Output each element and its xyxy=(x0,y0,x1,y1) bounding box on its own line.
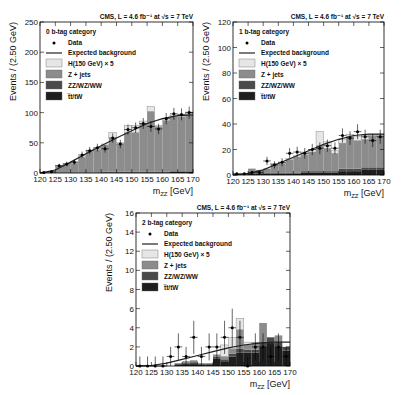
chart-svg: 1201251301351401451501551601651700501001… xyxy=(0,0,200,200)
y-tick-label: 8 xyxy=(130,286,135,295)
y-tick-label: 0 xyxy=(130,362,135,371)
legend: 2 b-tag categoryDataExpected backgroundH… xyxy=(142,219,232,291)
legend-entry: ZZ/WZ/WW xyxy=(68,82,103,89)
category-label: 1 b-tag category xyxy=(239,28,290,36)
x-axis-label: mZZ [GeV] xyxy=(344,188,384,199)
legend-entry: ZZ/WZ/WW xyxy=(164,273,199,280)
x-tick-label: 140 xyxy=(191,368,205,377)
legend-entry: Z + jets xyxy=(164,262,187,270)
x-tick-label: 130 xyxy=(160,368,174,377)
y-tick-label: 250 xyxy=(25,18,39,27)
y-tick-label: 10 xyxy=(125,266,134,275)
legend-entry: H(150 GeV) × 5 xyxy=(261,60,307,68)
x-tick-label: 160 xyxy=(156,175,170,184)
svg-text:Expected background: Expected background xyxy=(164,240,232,248)
chart-title: CMS, L = 4.6 fb⁻¹ at √s = 7 TeV xyxy=(291,13,385,21)
chart-title: CMS, L = 4.6 fb⁻¹ at √s = 7 TeV xyxy=(197,204,291,212)
x-tick-label: 135 xyxy=(272,177,286,186)
x-tick-label: 130 xyxy=(64,175,78,184)
chart-svg: 1201251301351401451501551601651700246810… xyxy=(100,196,300,395)
x-tick-label: 170 xyxy=(377,177,391,186)
x-tick-label: 165 xyxy=(362,177,376,186)
chart-svg: 1201251301351401451501551601651700204060… xyxy=(200,0,401,200)
x-tick-label: 150 xyxy=(125,175,139,184)
x-tick-label: 125 xyxy=(241,177,255,186)
x-tick-label: 140 xyxy=(287,177,301,186)
x-tick-label: 145 xyxy=(302,177,316,186)
x-tick-label: 140 xyxy=(95,175,109,184)
y-tick-label: 20 xyxy=(222,146,231,155)
x-tick-label: 145 xyxy=(206,368,220,377)
svg-text:Expected background: Expected background xyxy=(261,49,329,57)
svg-text:Data: Data xyxy=(68,39,82,46)
y-tick-label: 6 xyxy=(130,305,135,314)
y-axis-label: Events / (2.50 GeV) xyxy=(201,22,211,101)
category-label: 0 b-tag category xyxy=(46,28,97,36)
x-tick-label: 150 xyxy=(317,177,331,186)
x-tick-label: 150 xyxy=(222,368,236,377)
y-tick-label: 80 xyxy=(222,69,231,78)
y-tick-label: 120 xyxy=(218,18,232,27)
legend-entry: H(150 GeV) × 5 xyxy=(164,251,210,259)
x-tick-label: 160 xyxy=(253,368,267,377)
legend-entry: t̅t/tW xyxy=(260,93,276,100)
x-tick-label: 160 xyxy=(347,177,361,186)
legend-entry: ZZ/WZ/WW xyxy=(261,82,296,89)
y-tick-label: 0 xyxy=(227,171,232,180)
x-tick-label: 170 xyxy=(283,368,297,377)
chart-title: CMS, L = 4.6 fb⁻¹ at √s = 7 TeV xyxy=(100,13,194,21)
x-tick-label: 135 xyxy=(176,368,190,377)
legend-entry: t̅t/tW xyxy=(67,93,83,100)
y-tick-label: 12 xyxy=(125,247,134,256)
svg-text:Data: Data xyxy=(261,39,275,46)
x-tick-label: 155 xyxy=(140,175,154,184)
x-tick-label: 145 xyxy=(110,175,124,184)
y-tick-label: 16 xyxy=(125,209,134,218)
legend-entry: Z + jets xyxy=(261,71,284,79)
x-tick-label: 165 xyxy=(171,175,185,184)
x-tick-label: 170 xyxy=(186,175,200,184)
y-tick-label: 150 xyxy=(25,78,39,87)
chart-0btag: 1201251301351401451501551601651700501001… xyxy=(0,0,200,200)
y-tick-label: 100 xyxy=(218,44,232,53)
x-axis-label: mZZ [GeV] xyxy=(250,379,290,390)
y-tick-label: 40 xyxy=(222,120,231,129)
y-tick-label: 200 xyxy=(25,48,39,57)
svg-text:Data: Data xyxy=(164,230,178,237)
y-tick-label: 60 xyxy=(222,95,231,104)
legend-entry: H(150 GeV) × 5 xyxy=(68,60,114,68)
svg-text:Expected background: Expected background xyxy=(68,49,136,57)
x-tick-label: 155 xyxy=(332,177,346,186)
x-tick-label: 165 xyxy=(268,368,282,377)
legend: 0 b-tag categoryDataExpected backgroundH… xyxy=(46,28,136,100)
legend: 1 b-tag categoryDataExpected backgroundH… xyxy=(239,28,329,100)
y-tick-label: 50 xyxy=(29,139,38,148)
y-tick-label: 4 xyxy=(130,324,135,333)
legend-entry: t̅t/tW xyxy=(163,284,179,291)
x-tick-label: 130 xyxy=(257,177,271,186)
y-tick-label: 100 xyxy=(25,109,39,118)
chart-2btag: 1201251301351401451501551601651700246810… xyxy=(100,196,300,395)
category-label: 2 b-tag category xyxy=(142,219,193,227)
chart-1btag: 1201251301351401451501551601651700204060… xyxy=(200,0,401,200)
x-tick-label: 155 xyxy=(237,368,251,377)
legend-entry: Z + jets xyxy=(68,71,91,79)
y-axis-label: Events / (2.50 GeV) xyxy=(8,22,18,101)
y-tick-label: 2 xyxy=(130,343,135,352)
y-tick-label: 0 xyxy=(34,169,39,178)
x-tick-label: 135 xyxy=(79,175,93,184)
x-tick-label: 125 xyxy=(49,175,63,184)
y-axis-label: Events / (2.50 GeV) xyxy=(104,213,114,292)
y-tick-label: 14 xyxy=(125,228,134,237)
x-tick-label: 125 xyxy=(145,368,159,377)
